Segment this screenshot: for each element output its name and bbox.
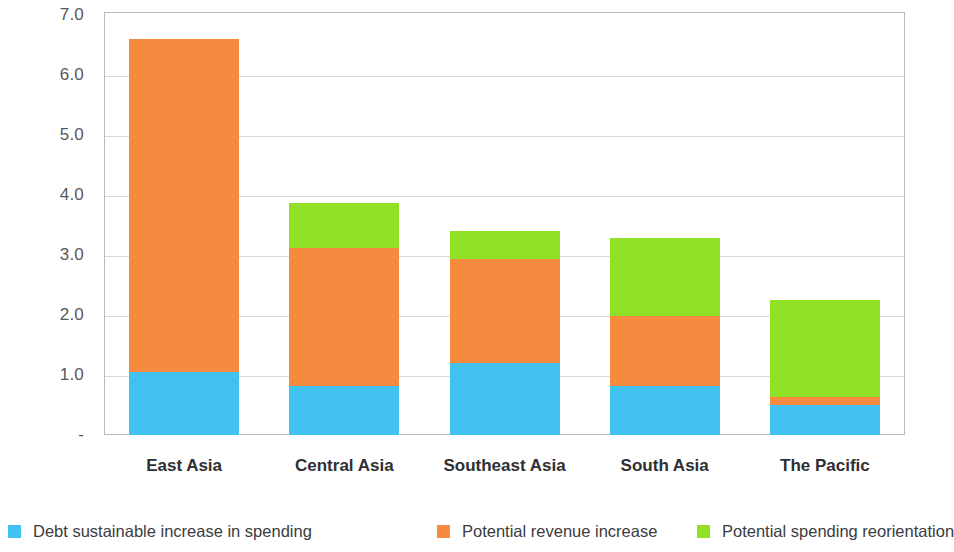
bar-segment[interactable] [610, 238, 720, 316]
legend-label: Potential spending reorientation [722, 522, 954, 541]
bar-stack [450, 231, 560, 435]
x-tick-label: Central Asia [295, 456, 394, 476]
bar-segment[interactable] [289, 386, 399, 435]
legend-label: Debt sustainable increase in spending [33, 522, 312, 541]
bar-segment[interactable] [610, 316, 720, 386]
y-tick-label: 1.0 [0, 365, 96, 385]
bar-segment[interactable] [770, 397, 880, 405]
bar-stack [129, 39, 239, 435]
y-tick-label: - [0, 425, 96, 445]
y-tick-label: 3.0 [0, 245, 96, 265]
bar-stack [610, 238, 720, 435]
y-tick-label: 7.0 [0, 5, 96, 25]
bars-layer [104, 12, 905, 435]
bar-group[interactable] [770, 12, 880, 435]
bar-segment[interactable] [289, 203, 399, 248]
x-tick-label: South Asia [621, 456, 709, 476]
bar-segment[interactable] [129, 372, 239, 435]
legend-swatch-icon [8, 525, 21, 538]
chart-legend: Debt sustainable increase in spendingPot… [0, 518, 918, 552]
bar-group[interactable] [129, 12, 239, 435]
bar-group[interactable] [289, 12, 399, 435]
bar-stack [289, 203, 399, 435]
bar-segment[interactable] [450, 259, 560, 363]
y-axis: 7.06.05.04.03.02.01.0- [0, 0, 96, 452]
bar-stack [770, 300, 880, 435]
bar-segment[interactable] [770, 405, 880, 435]
y-tick-label: 5.0 [0, 125, 96, 145]
bar-segment[interactable] [289, 248, 399, 386]
x-tick-label: The Pacific [780, 456, 870, 476]
legend-item[interactable]: Potential revenue increase [437, 518, 657, 544]
bar-segment[interactable] [129, 39, 239, 372]
x-tick-label: East Asia [146, 456, 222, 476]
bar-segment[interactable] [450, 231, 560, 259]
legend-swatch-icon [697, 525, 710, 538]
legend-item[interactable]: Potential spending reorientation [697, 518, 954, 544]
x-axis: East AsiaCentral AsiaSoutheast AsiaSouth… [104, 456, 905, 488]
legend-item[interactable]: Debt sustainable increase in spending [8, 518, 312, 544]
legend-swatch-icon [437, 525, 450, 538]
y-tick-label: 4.0 [0, 185, 96, 205]
y-tick-label: 6.0 [0, 65, 96, 85]
x-tick-label: Southeast Asia [443, 456, 565, 476]
bar-segment[interactable] [450, 363, 560, 435]
bar-group[interactable] [610, 12, 720, 435]
bar-segment[interactable] [610, 386, 720, 435]
bar-group[interactable] [450, 12, 560, 435]
bar-segment[interactable] [770, 300, 880, 397]
legend-label: Potential revenue increase [462, 522, 657, 541]
y-tick-label: 2.0 [0, 305, 96, 325]
